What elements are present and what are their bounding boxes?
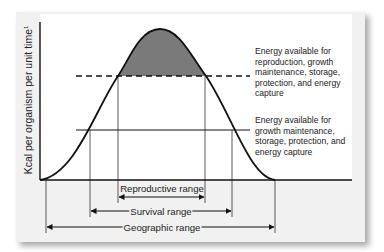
annotation-upper: Energy available for reproduction, growt… xyxy=(255,46,355,99)
y-axis-label: Kcal per organism per unit time1 xyxy=(22,26,34,175)
reproductive-range-label: Reproductive range xyxy=(119,183,205,194)
reproductive-energy-shaded-area xyxy=(40,29,275,180)
annotation-lower: Energy available for growth maintenance,… xyxy=(255,115,355,157)
geographic-range-label: Geographic range xyxy=(123,222,202,233)
survival-range-label: Survival range xyxy=(129,206,192,217)
